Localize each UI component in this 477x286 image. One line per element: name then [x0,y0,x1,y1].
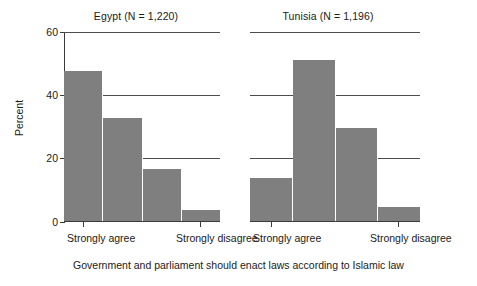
plot-panel-tunisia [250,32,420,222]
x-tick-egypt-left [83,222,84,227]
x-tick-tunisia-left [271,222,272,227]
bar-group-egypt [64,32,220,221]
bar-chart-figure: Egypt (N = 1,220) Tunisia (N = 1,196) Pe… [0,0,477,286]
y-tick-label-20: 20 [32,152,58,164]
x-tick-label-tunisia-strongly-disagree: Strongly disagree [370,232,452,244]
x-tick-tunisia-right [398,222,399,227]
y-tick-label-40: 40 [32,89,58,101]
bar-tunisia-strongly-agree [250,178,293,221]
panel-title-tunisia: Tunisia (N = 1,196) [242,10,414,22]
x-tick-egypt-right [200,222,201,227]
bar-tunisia-strongly-disagree [378,207,420,221]
y-tick-label-60: 60 [32,26,58,38]
bar-egypt-strongly-agree [64,71,103,221]
x-axis-title: Government and parliament should enact l… [0,259,477,271]
bar-egypt-disagree [143,169,182,221]
bar-group-tunisia [250,32,420,221]
x-tick-label-egypt-strongly-disagree: Strongly disagree [176,232,258,244]
panel-title-egypt: Egypt (N = 1,220) [56,10,216,22]
y-tick-label-0: 0 [32,216,58,228]
x-axis-baseline-egypt [64,221,220,222]
x-axis-baseline-tunisia [250,221,420,222]
bar-egypt-strongly-disagree [182,210,220,221]
plot-panel-egypt [64,32,220,222]
y-tick-mark-0 [60,222,65,223]
y-axis-label: Percent [13,83,25,153]
bar-tunisia-disagree [336,128,379,221]
bar-tunisia-agree [293,60,336,222]
x-tick-label-tunisia-strongly-agree: Strongly agree [253,232,321,244]
bar-egypt-agree [103,118,142,221]
x-tick-label-egypt-strongly-agree: Strongly agree [67,232,135,244]
